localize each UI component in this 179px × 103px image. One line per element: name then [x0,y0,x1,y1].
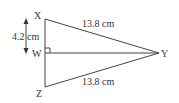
measure-zy: 13.8 cm [82,76,114,87]
arrow-up-icon [24,18,29,24]
measure-xy: 13.8 cm [82,18,114,29]
triangle-diagram: X W Z Y 13.8 cm 13.8 cm 4.2 cm [0,0,179,103]
arrow-down-icon [24,48,29,54]
vertex-label-w: W [32,48,42,59]
vertex-label-y: Y [161,48,168,59]
vertex-label-x: X [34,10,42,21]
measure-xw: 4.2 cm [12,31,39,42]
vertex-label-z: Z [36,88,42,99]
right-angle-marker [45,48,50,53]
